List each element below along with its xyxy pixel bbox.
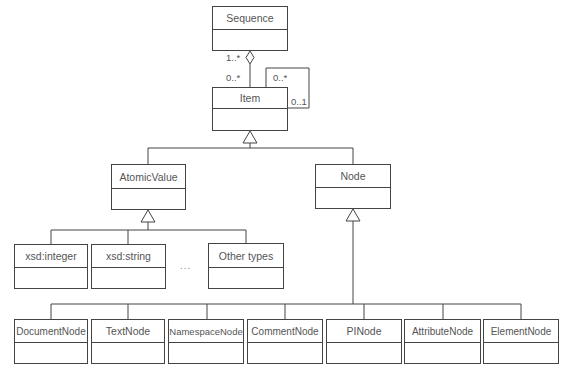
class-sequence: Sequence	[212, 6, 288, 51]
class-name: Sequence	[213, 7, 287, 30]
class-name: xsd:integer	[15, 245, 87, 268]
class-name: PINode	[327, 320, 401, 343]
class-atomic-value: AtomicValue	[111, 164, 186, 210]
class-comment-node: CommentNode	[247, 319, 323, 364]
class-name: Other types	[209, 244, 283, 268]
class-item: Item	[212, 87, 288, 131]
generalization-triangle-icon	[243, 131, 257, 143]
class-name: AttributeNode	[405, 320, 480, 343]
class-other-types: Other types	[208, 243, 284, 289]
class-name: DocumentNode	[15, 320, 87, 343]
class-xsd-integer: xsd:integer	[14, 244, 88, 289]
class-name: NamespaceNode	[169, 320, 243, 343]
class-name: CommentNode	[248, 320, 322, 343]
class-name: Node	[316, 165, 390, 188]
more-types-ellipsis: ...	[180, 260, 191, 271]
class-name: AtomicValue	[112, 165, 185, 189]
multiplicity-item-side: 0..*	[226, 72, 240, 83]
generalization-triangle-icon	[346, 209, 360, 221]
aggregation-diamond-icon	[246, 51, 254, 64]
class-attribute-node: AttributeNode	[404, 319, 481, 364]
generalization-triangle-icon	[141, 210, 155, 222]
class-node: Node	[315, 164, 391, 209]
class-name: TextNode	[92, 320, 164, 343]
class-xsd-string: xsd:string	[91, 244, 166, 289]
class-name: xsd:string	[92, 245, 165, 268]
class-element-node: ElementNode	[483, 319, 559, 364]
class-name: ElementNode	[484, 320, 558, 343]
class-document-node: DocumentNode	[14, 319, 88, 364]
class-name: Item	[213, 88, 287, 109]
class-pi-node: PINode	[326, 319, 402, 364]
class-text-node: TextNode	[91, 319, 165, 364]
multiplicity-self-right: 0..1	[291, 96, 307, 107]
multiplicity-sequence-side: 1..*	[226, 52, 240, 63]
multiplicity-self-top: 0..*	[273, 72, 287, 83]
class-namespace-node: NamespaceNode	[168, 319, 244, 364]
